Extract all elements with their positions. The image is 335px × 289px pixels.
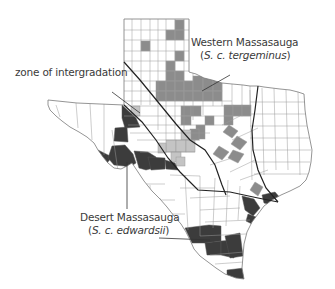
desert-sci-italic: S. c. edwardsii	[92, 224, 165, 236]
zone-of-intergradation-label: zone of intergradation	[15, 66, 127, 79]
zone-name: zone of intergradation	[15, 66, 127, 79]
texas-massasauga-map: Western Massasauga (S. c. tergeminus) zo…	[0, 0, 335, 289]
paren-close: )	[286, 49, 290, 61]
desert-scientific-name: (S. c. edwardsii)	[80, 224, 179, 237]
desert-massasauga-label: Desert Massasauga (S. c. edwardsii)	[80, 211, 179, 237]
western-name: Western Massasauga	[191, 36, 298, 49]
desert-name: Desert Massasauga	[80, 211, 179, 224]
western-massasauga-label: Western Massasauga (S. c. tergeminus)	[191, 36, 298, 62]
paren-close: )	[165, 224, 169, 236]
western-sci-italic: S. c. tergeminus	[204, 49, 287, 61]
western-scientific-name: (S. c. tergeminus)	[191, 49, 298, 62]
